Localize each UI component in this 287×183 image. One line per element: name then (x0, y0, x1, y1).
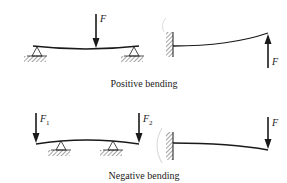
force-label-top-cantilever: F (272, 56, 278, 67)
force-symbol: F (272, 117, 278, 128)
caption-positive-bending: Positive bending (111, 78, 178, 89)
caption-negative-bending: Negative bending (109, 170, 180, 181)
upward-force-arrow-icon (265, 34, 272, 68)
force-label-bottom-cantilever: F (272, 117, 278, 128)
force-symbol: F (100, 13, 106, 24)
downward-force-arrow-icon (265, 117, 272, 149)
beam (36, 140, 139, 144)
positive-cantilever-panel (162, 18, 271, 68)
force-label-top-simple: F (100, 13, 106, 24)
ghost-mark (162, 18, 166, 32)
pin-support-left (48, 141, 71, 156)
force-label-f2: F2 (143, 113, 153, 127)
beam (173, 143, 268, 150)
beam (33, 46, 139, 49)
bending-diagram (0, 0, 287, 183)
positive-simply-supported-panel (24, 14, 144, 62)
downward-force-arrow-icon (93, 14, 100, 48)
force-subscript: 2 (149, 119, 153, 127)
pin-support-right (100, 141, 123, 156)
pin-support-left (24, 47, 47, 62)
fixed-wall-support (166, 132, 173, 160)
fixed-wall-support (166, 32, 173, 57)
force-label-f1: F1 (40, 113, 50, 127)
force-symbol: F (272, 56, 278, 67)
pin-support-right (121, 47, 144, 62)
downward-force-arrow-f1-icon (33, 113, 40, 143)
force-subscript: 1 (46, 119, 50, 127)
beam (173, 33, 268, 46)
ghost-mark (157, 128, 162, 163)
negative-cantilever-panel (157, 117, 272, 163)
downward-force-arrow-f2-icon (136, 113, 143, 143)
